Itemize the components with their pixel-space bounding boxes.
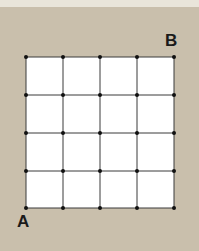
point-a-label: A [17,213,29,230]
point-b-label: B [165,32,177,49]
